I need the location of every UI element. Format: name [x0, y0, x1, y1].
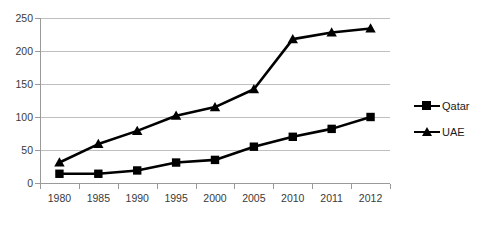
legend-item-uae[interactable]: UAE: [414, 119, 480, 145]
data-point-qatar: [55, 170, 63, 178]
series-line-qatar: [59, 117, 370, 174]
data-point-qatar: [366, 113, 374, 121]
line-chart: 050100150200250 198019851990199520002005…: [0, 0, 483, 235]
series-line-uae: [59, 29, 370, 163]
data-point-qatar: [250, 143, 258, 151]
data-point-qatar: [211, 156, 219, 164]
data-point-qatar: [133, 166, 141, 174]
legend-item-qatar[interactable]: Qatar: [414, 93, 480, 119]
data-point-qatar: [289, 133, 297, 141]
series-layer: [0, 0, 483, 235]
legend-marker-square-icon: [414, 99, 440, 113]
chart-legend: Qatar UAE: [414, 93, 480, 145]
legend-label: UAE: [440, 126, 465, 138]
legend-marker-triangle-icon: [414, 125, 440, 139]
data-point-qatar: [172, 158, 180, 166]
data-point-qatar: [327, 125, 335, 133]
data-point-qatar: [94, 170, 102, 178]
legend-label: Qatar: [440, 100, 470, 112]
